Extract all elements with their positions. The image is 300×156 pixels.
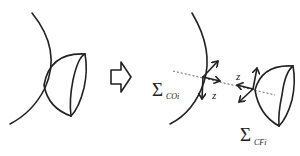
right-panel: z Σ COi z Σ CFi [152, 13, 294, 147]
surface-arc [10, 13, 51, 124]
diagram-canvas: z Σ COi z Σ CFi [0, 0, 300, 156]
axis-arrow-x [203, 61, 218, 77]
dashed-axis [173, 71, 275, 95]
axis-z-label: z [235, 70, 241, 82]
frame-symbol-coi: Σ [152, 79, 163, 100]
frame-subscript-cfi: CFi [254, 138, 266, 147]
frame-symbol-cfi: Σ [240, 124, 251, 145]
hollow-right-arrow-icon [111, 62, 131, 92]
axis-arrow-z [202, 77, 203, 99]
surface-arc-right [170, 13, 207, 124]
frame-coi: z Σ COi [152, 61, 220, 101]
axis-z-label: z [211, 89, 217, 101]
axis-arrow-x [239, 89, 253, 102]
left-panel [10, 13, 86, 124]
frame-cfi: z Σ CFi [235, 68, 266, 147]
frame-subscript-coi: COi [166, 92, 179, 101]
hemisphere-detached [255, 66, 294, 126]
